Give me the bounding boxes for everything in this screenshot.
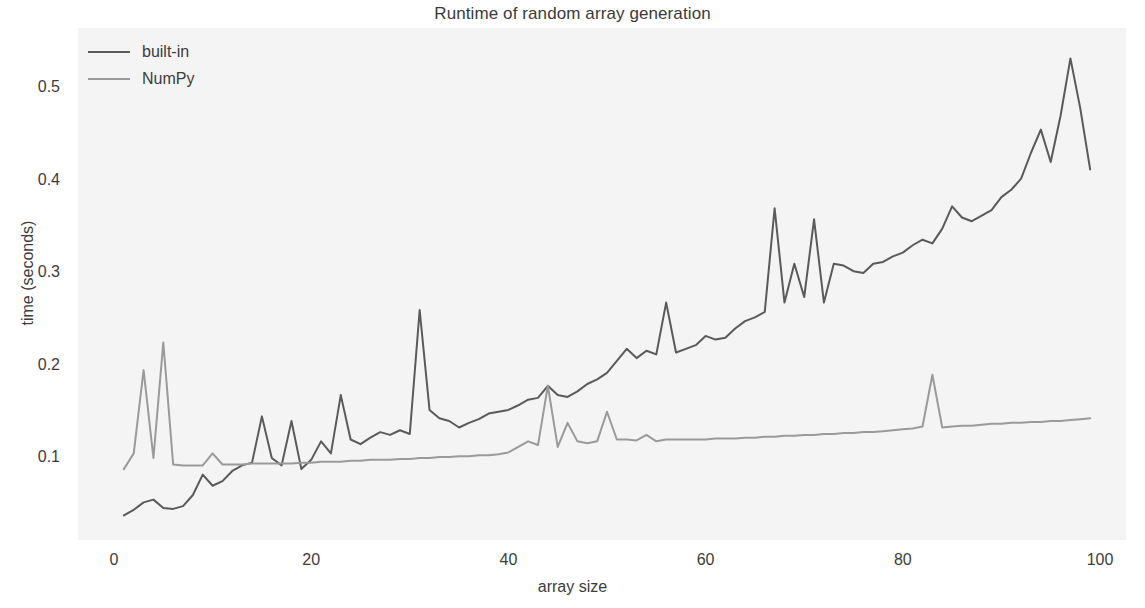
x-tick-label: 0 [84, 551, 144, 569]
y-tick-label: 0.1 [0, 448, 60, 466]
x-tick-label: 60 [676, 551, 736, 569]
legend-label: built-in [142, 43, 189, 61]
series-layer [124, 58, 1090, 515]
x-axis-label: array size [0, 578, 1145, 596]
legend-swatch-icon [88, 51, 130, 53]
x-tick-label: 80 [873, 551, 933, 569]
legend-item[interactable]: built-in [88, 38, 238, 65]
x-tick-label: 40 [478, 551, 538, 569]
x-tick-label: 100 [1070, 551, 1130, 569]
series-line-numpy [124, 342, 1090, 469]
x-tick-label: 20 [281, 551, 341, 569]
chart-figure: Runtime of random array generation 0.10.… [0, 0, 1145, 608]
legend-swatch-icon [88, 78, 130, 80]
series-line-built-in [124, 58, 1090, 515]
legend-item[interactable]: NumPy [88, 65, 238, 92]
chart-legend: built-inNumPy [88, 38, 238, 92]
legend-label: NumPy [142, 70, 194, 88]
y-tick-label: 0.5 [0, 78, 60, 96]
y-axis-label: time (seconds) [19, 163, 37, 383]
